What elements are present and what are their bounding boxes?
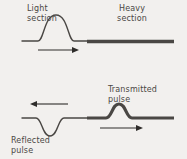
after-light-rope-path (22, 118, 87, 136)
label-transmitted-pulse: Transmitted pulse (108, 85, 157, 104)
reflected-transmitted-panel (22, 101, 174, 136)
reflected-direction-arrow (30, 101, 68, 107)
label-light-section: Light section (27, 4, 57, 23)
after-heavy-rope-path (87, 104, 174, 118)
label-reflected-pulse: Reflected pulse (11, 136, 50, 155)
label-heavy-section: Heavy section (104, 4, 160, 23)
transmitted-direction-arrow (100, 125, 143, 131)
incident-direction-arrow (38, 47, 79, 53)
physics-wave-pulse-figure: Light section Heavy section Transmitted … (0, 0, 187, 159)
